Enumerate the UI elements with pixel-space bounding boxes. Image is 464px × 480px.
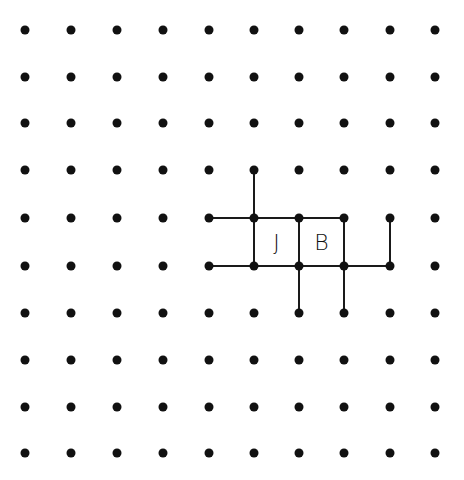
grid-dot[interactable] (67, 403, 76, 412)
grid-dot[interactable] (295, 309, 304, 318)
grid-dot[interactable] (431, 449, 440, 458)
drawn-line[interactable] (254, 265, 299, 267)
grid-dot[interactable] (159, 119, 168, 128)
grid-dot[interactable] (340, 356, 349, 365)
grid-dot[interactable] (431, 356, 440, 365)
drawn-line[interactable] (209, 217, 254, 219)
grid-dot[interactable] (295, 26, 304, 35)
grid-dot[interactable] (431, 119, 440, 128)
drawn-line[interactable] (298, 266, 300, 313)
grid-dot[interactable] (205, 449, 214, 458)
grid-dot[interactable] (113, 356, 122, 365)
grid-dot[interactable] (431, 214, 440, 223)
drawn-line[interactable] (343, 218, 345, 266)
grid-dot[interactable] (431, 309, 440, 318)
grid-dot[interactable] (113, 403, 122, 412)
grid-dot[interactable] (386, 166, 395, 175)
grid-dot[interactable] (340, 403, 349, 412)
grid-dot[interactable] (295, 356, 304, 365)
grid-dot[interactable] (340, 309, 349, 318)
grid-dot[interactable] (21, 309, 30, 318)
grid-dot[interactable] (250, 356, 259, 365)
grid-dot[interactable] (340, 166, 349, 175)
grid-dot[interactable] (113, 73, 122, 82)
grid-dot[interactable] (205, 309, 214, 318)
grid-dot[interactable] (159, 214, 168, 223)
grid-dot[interactable] (295, 403, 304, 412)
grid-dot[interactable] (340, 449, 349, 458)
grid-dot[interactable] (431, 403, 440, 412)
grid-dot[interactable] (113, 119, 122, 128)
grid-dot[interactable] (67, 214, 76, 223)
grid-dot[interactable] (431, 73, 440, 82)
grid-dot[interactable] (295, 166, 304, 175)
grid-dot[interactable] (250, 403, 259, 412)
drawn-line[interactable] (389, 218, 391, 266)
grid-dot[interactable] (250, 309, 259, 318)
grid-dot[interactable] (159, 26, 168, 35)
grid-dot[interactable] (159, 449, 168, 458)
grid-dot[interactable] (21, 214, 30, 223)
grid-dot[interactable] (67, 166, 76, 175)
grid-dot[interactable] (340, 73, 349, 82)
grid-dot[interactable] (386, 449, 395, 458)
grid-dot[interactable] (67, 356, 76, 365)
drawn-line[interactable] (299, 265, 344, 267)
grid-dot[interactable] (21, 356, 30, 365)
grid-dot[interactable] (386, 214, 395, 223)
grid-dot[interactable] (67, 262, 76, 271)
grid-dot[interactable] (159, 356, 168, 365)
drawn-line[interactable] (343, 266, 345, 313)
grid-dot[interactable] (159, 309, 168, 318)
grid-dot[interactable] (386, 26, 395, 35)
grid-dot[interactable] (386, 356, 395, 365)
grid-dot[interactable] (21, 449, 30, 458)
grid-dot[interactable] (21, 403, 30, 412)
grid-dot[interactable] (250, 214, 259, 223)
grid-dot[interactable] (159, 403, 168, 412)
grid-dot[interactable] (431, 26, 440, 35)
grid-dot[interactable] (295, 73, 304, 82)
grid-dot[interactable] (21, 26, 30, 35)
grid-dot[interactable] (159, 73, 168, 82)
grid-dot[interactable] (386, 309, 395, 318)
grid-dot[interactable] (386, 73, 395, 82)
grid-dot[interactable] (205, 119, 214, 128)
grid-dot[interactable] (159, 262, 168, 271)
grid-dot[interactable] (159, 166, 168, 175)
drawn-line[interactable] (253, 170, 255, 218)
grid-dot[interactable] (113, 262, 122, 271)
drawn-line[interactable] (254, 217, 299, 219)
grid-dot[interactable] (386, 403, 395, 412)
grid-dot[interactable] (113, 166, 122, 175)
grid-dot[interactable] (250, 73, 259, 82)
grid-dot[interactable] (21, 119, 30, 128)
grid-dot[interactable] (340, 26, 349, 35)
drawn-line[interactable] (209, 265, 254, 267)
grid-dot[interactable] (205, 262, 214, 271)
grid-dot[interactable] (113, 214, 122, 223)
grid-dot[interactable] (113, 309, 122, 318)
grid-dot[interactable] (295, 449, 304, 458)
grid-dot[interactable] (386, 262, 395, 271)
grid-dot[interactable] (386, 119, 395, 128)
grid-dot[interactable] (295, 119, 304, 128)
grid-dot[interactable] (205, 166, 214, 175)
grid-dot[interactable] (340, 214, 349, 223)
grid-dot[interactable] (113, 26, 122, 35)
grid-dot[interactable] (340, 119, 349, 128)
grid-dot[interactable] (21, 262, 30, 271)
grid-dot[interactable] (250, 26, 259, 35)
drawn-line[interactable] (344, 265, 390, 267)
grid-dot[interactable] (340, 262, 349, 271)
grid-dot[interactable] (67, 73, 76, 82)
grid-dot[interactable] (67, 119, 76, 128)
grid-dot[interactable] (250, 166, 259, 175)
drawn-line[interactable] (253, 218, 255, 266)
grid-dot[interactable] (67, 309, 76, 318)
grid-dot[interactable] (21, 73, 30, 82)
grid-dot[interactable] (205, 214, 214, 223)
drawn-line[interactable] (298, 218, 300, 266)
grid-dot[interactable] (67, 449, 76, 458)
grid-dot[interactable] (250, 262, 259, 271)
